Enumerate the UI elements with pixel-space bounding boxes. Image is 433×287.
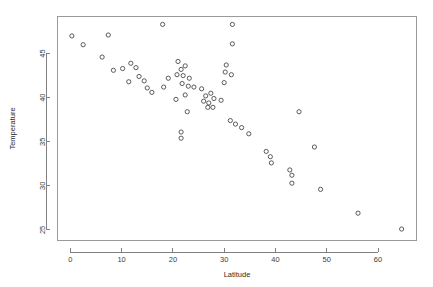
data-point (247, 132, 251, 136)
data-point (175, 73, 179, 77)
data-point (268, 155, 272, 159)
data-point (400, 227, 404, 231)
data-point (145, 86, 149, 90)
data-point (288, 168, 292, 172)
data-point (106, 33, 110, 37)
data-points-group (70, 22, 404, 231)
y-tick-label: 45 (38, 49, 47, 57)
data-point (200, 87, 204, 91)
data-point (319, 187, 323, 191)
data-point (111, 68, 115, 72)
data-point (204, 94, 208, 98)
data-point (70, 34, 74, 38)
data-point (224, 63, 228, 67)
data-point (209, 91, 213, 95)
data-point (129, 61, 133, 65)
data-point (179, 130, 183, 134)
data-point (230, 42, 234, 46)
data-point (180, 81, 184, 85)
data-point (192, 85, 196, 89)
data-point (166, 76, 170, 80)
data-point (290, 181, 294, 185)
data-point (134, 66, 138, 70)
data-point (206, 105, 210, 109)
y-axis-title: Temperature (8, 107, 17, 149)
data-point (297, 110, 301, 114)
y-axis: 2530354045 (38, 49, 50, 234)
x-tick-label: 40 (271, 255, 279, 264)
data-point (222, 81, 226, 85)
data-point (179, 67, 183, 71)
x-axis: 0102030405060 (68, 248, 382, 264)
data-point (137, 74, 141, 78)
x-tick-label: 0 (68, 255, 72, 264)
data-point (127, 80, 131, 84)
data-point (269, 161, 273, 165)
data-point (100, 55, 104, 59)
data-point (228, 118, 232, 122)
data-point (186, 84, 190, 88)
x-tick-label: 20 (169, 255, 177, 264)
y-tick-label: 25 (38, 226, 47, 234)
data-point (150, 90, 154, 94)
data-point (185, 110, 189, 114)
data-point (81, 43, 85, 47)
data-point (356, 211, 360, 215)
x-tick-label: 60 (374, 255, 382, 264)
data-point (174, 97, 178, 101)
x-tick-label: 50 (323, 255, 331, 264)
y-tick-label: 30 (38, 182, 47, 190)
data-point (233, 122, 237, 126)
data-point (290, 173, 294, 177)
x-tick-label: 10 (117, 255, 125, 264)
plot-frame (58, 17, 417, 241)
data-point (183, 64, 187, 68)
data-point (142, 79, 146, 83)
data-point (211, 105, 215, 109)
data-point (223, 70, 227, 74)
data-point (207, 101, 211, 105)
data-point (240, 126, 244, 130)
data-point (187, 76, 191, 80)
data-point (179, 136, 183, 140)
data-point (162, 85, 166, 89)
data-point (176, 59, 180, 63)
data-point (183, 93, 187, 97)
y-tick-label: 35 (38, 138, 47, 146)
data-point (121, 66, 125, 70)
data-point (229, 73, 233, 77)
data-point (202, 99, 206, 103)
data-point (219, 98, 223, 102)
x-tick-label: 30 (220, 255, 228, 264)
data-point (264, 149, 268, 153)
x-axis-title: Latitude (224, 270, 251, 279)
chart-canvas: 01020304050602530354045LatitudeTemperatu… (0, 0, 433, 287)
data-point (312, 145, 316, 149)
data-point (212, 96, 216, 100)
y-tick-label: 40 (38, 93, 47, 101)
scatter-plot-figure: 01020304050602530354045LatitudeTemperatu… (0, 0, 433, 287)
data-point (161, 22, 165, 26)
data-point (230, 22, 234, 26)
data-point (181, 73, 185, 77)
